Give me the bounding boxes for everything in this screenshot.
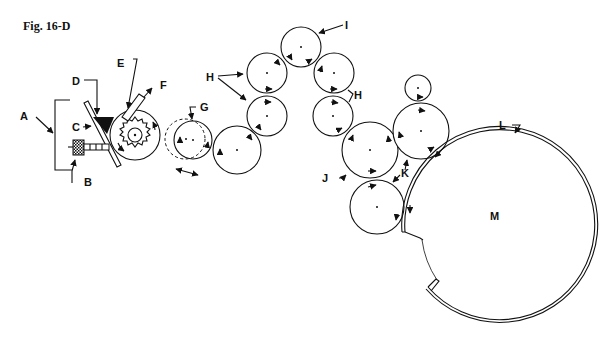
adjusting-screw-knob	[73, 140, 84, 155]
ink-fountain-assembly	[36, 59, 160, 183]
label-h-left: H	[206, 71, 214, 83]
label-c: C	[72, 121, 80, 133]
label-h-right: H	[354, 89, 362, 101]
plate-clamp-lead	[402, 232, 423, 240]
cylinder-gap	[422, 240, 437, 280]
leader-g	[190, 107, 196, 119]
leader-a	[36, 117, 53, 133]
label-i: I	[345, 19, 348, 31]
distributor-rollers	[213, 27, 449, 234]
label-l: L	[499, 119, 506, 131]
label-g: G	[200, 101, 209, 113]
label-f: F	[160, 79, 167, 91]
leader-c	[83, 126, 91, 127]
leader-b	[72, 160, 75, 183]
label-j: J	[322, 172, 328, 184]
label-e: E	[117, 57, 124, 69]
leader-k-down	[393, 175, 400, 182]
label-k: K	[401, 167, 409, 179]
leader-h-upper	[218, 74, 243, 76]
printing-press-roller-diagram: A B C D E F G H H I J K L M	[0, 0, 608, 355]
ductor-roller	[165, 107, 212, 175]
label-b: B	[84, 176, 92, 188]
leader-h-right	[348, 90, 353, 102]
oscillation-arrow	[176, 169, 198, 175]
leader-h-lower	[218, 78, 246, 100]
leader-j	[339, 175, 346, 178]
label-d: D	[72, 75, 80, 87]
bracket-a	[55, 100, 72, 170]
label-a: A	[20, 110, 28, 122]
leader-i	[319, 25, 343, 33]
label-m: M	[490, 210, 499, 222]
